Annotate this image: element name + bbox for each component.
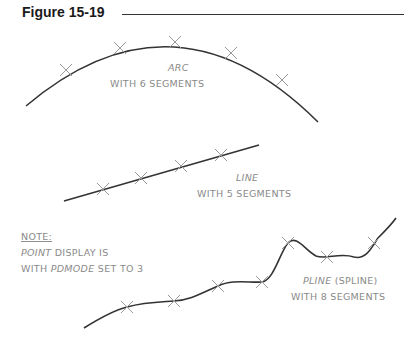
point-x-icon — [282, 237, 294, 249]
point-x-icon — [60, 64, 72, 76]
point-x-icon — [225, 47, 237, 59]
point-x-icon — [169, 36, 181, 48]
point-x-icon — [276, 74, 288, 86]
line-label-segments: WITH 5 SEGMENTS — [197, 188, 291, 199]
note-line-1: POINT DISPLAY IS — [21, 247, 109, 258]
note-line-2: WITH PDMODE SET TO 3 — [21, 263, 143, 274]
note-heading: NOTE: — [21, 231, 52, 242]
point-x-icon — [121, 301, 133, 313]
note-point-term: POINT — [21, 247, 52, 258]
line-label-title: LINE — [236, 172, 258, 183]
point-x-icon — [368, 237, 380, 249]
arc-label-segments: WITH 6 SEGMENTS — [110, 78, 204, 89]
note-pdmode-term: PDMODE — [51, 263, 95, 274]
arc-label-title: ARC — [167, 62, 189, 73]
figure-diagram: ARC WITH 6 SEGMENTS LINE WITH 5 SEGMENTS… — [0, 0, 418, 349]
spline-label-segments: WITH 8 SEGMENTS — [291, 291, 385, 302]
spline-label-title: PLINE (SPLINE) — [303, 275, 378, 286]
point-x-icon — [212, 280, 224, 292]
